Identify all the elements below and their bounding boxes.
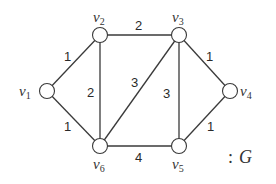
- node-v2: [93, 28, 108, 43]
- edges: [47, 35, 230, 146]
- edge-v1-v2: [47, 35, 100, 91]
- edge-v3-v4: [179, 35, 230, 91]
- weight-v1-v6: 1: [64, 119, 71, 134]
- nodes: [40, 28, 238, 154]
- weight-v3-v6: 3: [131, 75, 138, 90]
- weight-v2-v3: 2: [135, 18, 142, 33]
- edge-v4-v5: [179, 91, 230, 146]
- weight-v2-v6: 2: [87, 85, 94, 100]
- weight-v3-v5: 3: [163, 86, 170, 101]
- node-v1: [40, 84, 55, 99]
- weight-v3-v4: 1: [206, 49, 213, 64]
- weight-v1-v2: 1: [64, 49, 71, 64]
- weight-v6-v5: 4: [135, 150, 142, 165]
- node-v3: [172, 28, 187, 43]
- label-v2: v2: [93, 9, 105, 27]
- node-v5: [172, 139, 187, 154]
- label-v6: v6: [93, 156, 105, 174]
- graph-caption: :G: [228, 147, 252, 167]
- label-v1: v1: [19, 83, 31, 101]
- node-v6: [93, 139, 108, 154]
- label-v4: v4: [240, 83, 252, 101]
- weight-v4-v5: 1: [207, 119, 214, 134]
- label-v5: v5: [172, 156, 184, 174]
- label-v3: v3: [172, 9, 184, 27]
- node-v4: [223, 84, 238, 99]
- weighted-graph-diagram: 1 1 2 2 3 3 1 1 4 v1 v2 v3 v4 v5 v6 :G: [0, 0, 276, 184]
